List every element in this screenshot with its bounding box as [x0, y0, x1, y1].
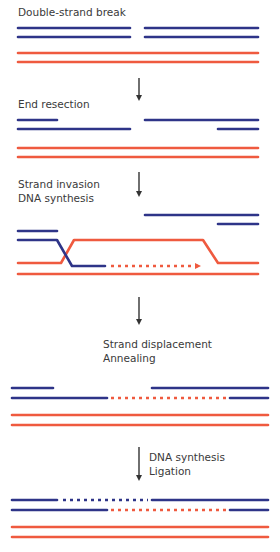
step-label: End resection [18, 98, 90, 110]
step-label: Ligation [149, 465, 191, 477]
step-label: DNA synthesis [149, 451, 225, 463]
step-label: Double-strand break [18, 6, 127, 18]
repaired-dna [12, 500, 268, 510]
template-dna-duplex [18, 148, 258, 157]
template-dna-duplex [18, 53, 258, 62]
right-broken-end [145, 215, 258, 224]
dsbr-diagram: Double-strand break End resection [0, 0, 280, 552]
broken-dna-duplex [18, 28, 258, 37]
annealed-dna [12, 388, 268, 398]
step-label: Annealing [103, 352, 156, 364]
d-loop [18, 231, 258, 274]
step-strand-displacement: Strand displacement Annealing [12, 338, 268, 425]
step-label: DNA synthesis [18, 192, 94, 204]
displaced-red-strand [18, 240, 258, 263]
template-dna-duplex [12, 527, 268, 537]
step-double-strand-break: Double-strand break [18, 6, 258, 62]
step-label: Strand invasion [18, 178, 100, 190]
step-dna-synthesis-ligation: DNA synthesis Ligation [12, 451, 268, 537]
step-end-resection: End resection [18, 98, 258, 157]
resected-dna [18, 120, 258, 129]
step-strand-invasion: Strand invasion DNA synthesis [18, 178, 258, 274]
step-label: Strand displacement [103, 338, 212, 350]
template-dna-duplex [12, 415, 268, 425]
